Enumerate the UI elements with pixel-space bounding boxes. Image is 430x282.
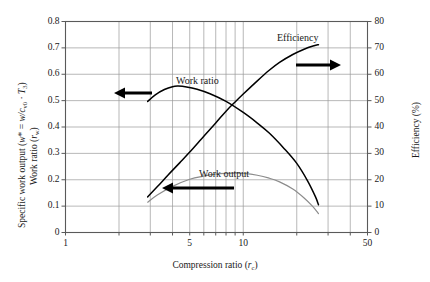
y-axis-left-title-line1: Specific work output (w* = w/cv0 · T3) xyxy=(17,82,28,228)
axis-tick-marks xyxy=(62,22,372,236)
ylt2-sub: w xyxy=(33,130,40,135)
curve-label-efficiency: Efficiency xyxy=(277,32,318,43)
y-axis-right-title: Efficiency (%) xyxy=(411,102,421,158)
chart-figure: 00.10.20.30.40.50.60.70.8 01020304050607… xyxy=(0,0,430,282)
yrt-text: Efficiency (%) xyxy=(411,102,421,158)
ylt2-r: r xyxy=(29,135,39,139)
ylt-star: * xyxy=(17,132,27,137)
y-left-tick-0.8: 0.8 xyxy=(34,16,60,26)
y-right-tick-10: 10 xyxy=(375,200,401,210)
ylt-w: w xyxy=(17,136,27,142)
ylt-dot: · xyxy=(17,94,27,102)
ylt-prefix: Specific work output ( xyxy=(17,143,27,228)
y-right-tick-70: 70 xyxy=(375,42,401,52)
y-left-tick-0.1: 0.1 xyxy=(34,200,60,210)
y-left-tick-0.7: 0.7 xyxy=(34,42,60,52)
y-right-tick-80: 80 xyxy=(375,16,401,26)
x-tick-1: 1 xyxy=(51,238,81,248)
curve-label-work-ratio: Work ratio xyxy=(176,75,219,86)
y-right-tick-30: 30 xyxy=(375,147,401,157)
ylt-eq: = xyxy=(17,122,27,132)
ylt-T: T xyxy=(17,89,27,94)
y-right-tick-20: 20 xyxy=(375,174,401,184)
y-left-tick-0.5: 0.5 xyxy=(34,95,60,105)
ylt-sub2: 3 xyxy=(21,85,28,88)
y-axis-left-title-line2: Work ratio (rw) xyxy=(29,127,40,185)
xt-prefix: Compression ratio ( xyxy=(172,260,247,270)
x-axis-title: Compression ratio (rc) xyxy=(0,260,430,271)
y-left-tick-0: 0 xyxy=(34,227,60,237)
x-tick-5: 5 xyxy=(175,238,205,248)
grid-lines xyxy=(66,22,368,233)
x-tick-50: 50 xyxy=(353,238,383,248)
ylt2-prefix: Work ratio ( xyxy=(29,139,39,185)
y-right-tick-40: 40 xyxy=(375,121,401,131)
ylt-suffix: ) xyxy=(17,82,27,85)
y-right-tick-0: 0 xyxy=(375,227,401,237)
ylt2-suffix: ) xyxy=(29,127,39,130)
xt-suffix: ) xyxy=(254,260,257,270)
y-right-tick-60: 60 xyxy=(375,68,401,78)
y-left-tick-0.6: 0.6 xyxy=(34,68,60,78)
curve-label-work-output: Work output xyxy=(199,168,249,179)
ylt-wc: w/c xyxy=(17,108,27,121)
ylt-sub1: v0 xyxy=(21,102,28,108)
y-right-tick-50: 50 xyxy=(375,95,401,105)
x-tick-10: 10 xyxy=(228,238,258,248)
